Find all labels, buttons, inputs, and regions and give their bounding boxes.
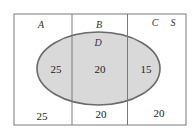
value-b-and-d: 20	[95, 63, 107, 75]
value-a-only: 25	[37, 110, 49, 122]
value-b-only: 20	[96, 108, 108, 120]
venn-diagram: A B C S D 25 20 15 25 20 20	[0, 0, 192, 132]
value-a-and-d: 25	[51, 63, 63, 75]
set-c-label: C	[152, 17, 159, 28]
set-d-label: D	[93, 37, 102, 48]
universal-set-label: S	[171, 17, 176, 28]
value-c-only: 20	[154, 107, 166, 119]
set-b-label: B	[96, 19, 102, 30]
value-c-and-d: 15	[141, 63, 153, 75]
set-a-label: A	[37, 19, 45, 30]
